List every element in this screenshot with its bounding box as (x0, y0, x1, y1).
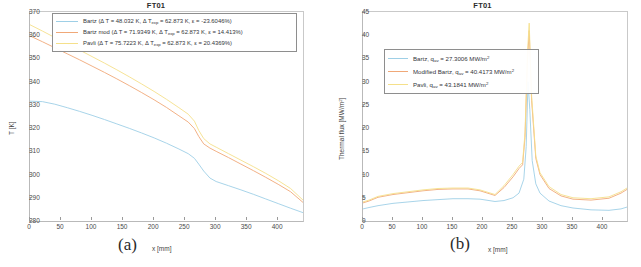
x-tick-label: 350 (567, 220, 578, 230)
legend-superscript: 2 (486, 81, 488, 86)
x-tick-mark (542, 217, 543, 220)
legend-subscript: av (434, 57, 439, 62)
x-tick-label: 400 (272, 220, 283, 230)
legend-entry-pavli: Pavli, qav = 43.1841 MW/m2 (388, 78, 534, 91)
x-tick-label: 250 (507, 220, 518, 230)
y-tick-mark (362, 81, 365, 82)
panel-a-xlabel: x [mm] (152, 245, 172, 252)
legend-entry-bartz: Bartz, qav = 27.3006 MW/m2 (388, 52, 534, 65)
panel-b-ylabel: Thermal flux [MW/m2] (338, 98, 345, 160)
x-tick-label: 100 (86, 220, 97, 230)
x-tick-label: 0 (360, 220, 364, 230)
panel-a-legend: Bartz (Δ T = 48.032 K, Δ Texp = 62.873 K… (52, 13, 297, 52)
panel-a-letter: (a) (118, 235, 137, 255)
series-line-bartz (30, 101, 303, 212)
figure-container: FT01 28029030031032033034035036037005010… (0, 0, 641, 267)
legend-color-swatch (388, 71, 408, 72)
panel-b-legend: Bartz, qav = 27.3006 MW/m2Modified Bartz… (384, 49, 539, 94)
x-tick-label: 400 (597, 220, 608, 230)
legend-subscript: av (459, 70, 464, 75)
x-tick-mark (572, 217, 573, 220)
x-tick-label: 100 (417, 220, 428, 230)
x-tick-mark (422, 217, 423, 220)
x-tick-mark (29, 217, 30, 220)
legend-entry-bartz: Bartz (Δ T = 48.032 K, Δ Texp = 62.873 K… (56, 16, 292, 27)
x-tick-mark (215, 217, 216, 220)
y-tick-mark (29, 127, 32, 128)
x-tick-label: 200 (477, 220, 488, 230)
y-tick-mark (362, 11, 365, 12)
x-tick-mark (512, 217, 513, 220)
legend-entry-label: Bartz, qav = 27.3006 MW/m2 (413, 55, 489, 63)
y-tick-mark (362, 150, 365, 151)
y-tick-mark (29, 174, 32, 175)
x-tick-label: 50 (56, 220, 63, 230)
x-tick-mark (452, 217, 453, 220)
legend-entry-bartz-mod: Bartz mod (Δ T = 71.9349 K, Δ Texp = 62.… (56, 27, 292, 38)
x-tick-label: 350 (241, 220, 252, 230)
panel-b-ylabel-post: ] (338, 98, 345, 100)
panel-b-ylabel-pre: Thermal flux [MW/m (338, 102, 345, 160)
legend-entry-label: Bartz (Δ T = 48.032 K, Δ Texp = 62.873 K… (83, 18, 232, 25)
y-tick-mark (29, 81, 32, 82)
x-tick-mark (602, 217, 603, 220)
panel-b-plot (363, 12, 627, 221)
legend-subscript: exp (168, 31, 175, 36)
y-tick-mark (29, 150, 32, 151)
legend-subscript: exp (154, 42, 161, 47)
x-tick-label: 300 (537, 220, 548, 230)
x-tick-mark (392, 217, 393, 220)
panel-b-ylabel-exponent: 2 (338, 99, 343, 101)
panel-b-axes (362, 11, 628, 222)
y-tick-mark (29, 57, 32, 58)
legend-superscript: 2 (512, 68, 514, 73)
legend-entry-label: Pavli (Δ T = 75.7223 K, Δ Texp = 62.873 … (83, 40, 232, 47)
legend-superscript: 2 (487, 55, 489, 60)
legend-entry-pavli: Pavli (Δ T = 75.7223 K, Δ Texp = 62.873 … (56, 38, 292, 49)
panel-b: FT01 05101520253035404505010015020025030… (320, 0, 641, 267)
x-tick-mark (91, 217, 92, 220)
legend-color-swatch (388, 58, 408, 59)
legend-color-swatch (56, 32, 78, 33)
legend-subscript: av (433, 83, 438, 88)
x-tick-mark (482, 217, 483, 220)
panel-b-letter: (b) (450, 234, 470, 254)
x-tick-mark (362, 217, 363, 220)
legend-entry-label: Modified Bartz, qav = 40.4173 MW/m2 (413, 68, 514, 76)
x-tick-mark (277, 217, 278, 220)
x-tick-mark (153, 217, 154, 220)
y-tick-mark (362, 127, 365, 128)
legend-subscript: exp (152, 20, 159, 25)
x-tick-label: 200 (148, 220, 159, 230)
legend-entry-label: Bartz mod (Δ T = 71.9349 K, Δ Texp = 62.… (83, 29, 243, 36)
legend-color-swatch (388, 84, 408, 85)
x-tick-label: 300 (210, 220, 221, 230)
x-tick-label: 150 (117, 220, 128, 230)
y-tick-mark (362, 174, 365, 175)
x-tick-mark (122, 217, 123, 220)
y-tick-mark (362, 104, 365, 105)
series-line-bartz (363, 82, 627, 211)
x-tick-mark (246, 217, 247, 220)
panel-b-title: FT01 (338, 1, 627, 10)
panel-a: FT01 28029030031032033034035036037005010… (0, 0, 320, 267)
series-line-bartz-mod (30, 36, 303, 203)
y-tick-mark (29, 34, 32, 35)
y-tick-mark (29, 11, 32, 12)
legend-entry-modified-bartz: Modified Bartz, qav = 40.4173 MW/m2 (388, 65, 534, 78)
x-tick-label: 50 (388, 220, 395, 230)
legend-color-swatch (56, 43, 78, 44)
x-tick-label: 250 (179, 220, 190, 230)
panel-a-ylabel: T [K] (8, 121, 15, 135)
x-tick-label: 150 (447, 220, 458, 230)
y-tick-mark (29, 197, 32, 198)
x-tick-label: 0 (27, 220, 31, 230)
panel-b-xlabel: x [mm] (488, 246, 508, 253)
y-tick-mark (362, 197, 365, 198)
x-tick-mark (60, 217, 61, 220)
y-tick-mark (362, 57, 365, 58)
y-tick-mark (362, 34, 365, 35)
legend-entry-label: Pavli, qav = 43.1841 MW/m2 (413, 81, 488, 89)
y-tick-mark (29, 104, 32, 105)
x-tick-mark (184, 217, 185, 220)
